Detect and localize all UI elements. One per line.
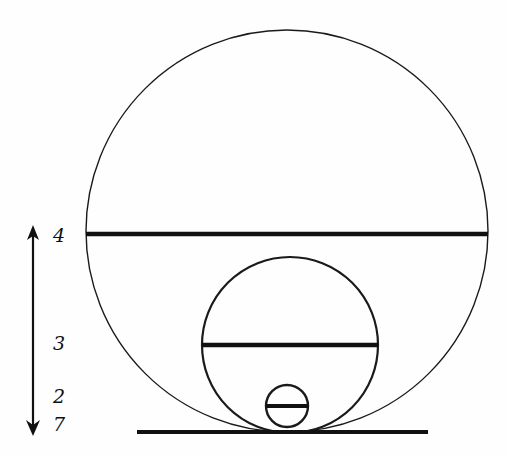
scale-label-3: 3 [53, 332, 65, 354]
scale-label-4: 4 [52, 224, 65, 246]
figure-canvas: 4 3 2 7 [0, 0, 508, 457]
scale-label-2: 2 [52, 385, 65, 407]
scale-label-7: 7 [53, 413, 66, 435]
geometry-diagram: 4 3 2 7 [0, 0, 508, 457]
diagram-background [0, 0, 508, 457]
